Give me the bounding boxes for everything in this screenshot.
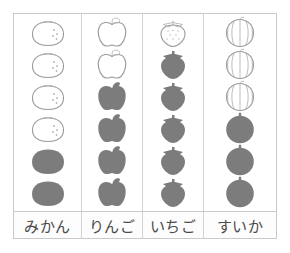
mandarin-icon: [28, 113, 68, 143]
mandarin-icon: [28, 145, 68, 175]
mandarin-icon: [28, 177, 68, 207]
strawberry-icon: [158, 112, 188, 144]
watermelon-icon: [221, 16, 259, 48]
pictograph-cell: [143, 16, 203, 48]
mandarin-icon: [28, 49, 68, 79]
pictograph-cell: [82, 144, 142, 176]
pictograph-cell: [204, 144, 276, 176]
pictograph-cell: [143, 80, 203, 112]
pictograph-cell: [14, 48, 81, 80]
pictograph-cell: [82, 16, 142, 48]
pictograph-cell: [143, 112, 203, 144]
apple-icon: [94, 16, 130, 48]
pictograph-cell: [143, 48, 203, 80]
pictograph-cell: [14, 176, 81, 208]
pictograph-cell: [204, 112, 276, 144]
apple-icon: [94, 80, 130, 112]
watermelon-icon: [221, 48, 259, 80]
pictograph-cell: [204, 16, 276, 48]
pictograph-cell: [14, 16, 81, 48]
pictograph-column-ichigo: [142, 14, 203, 211]
column-label-mikan: みかん: [14, 212, 81, 238]
apple-icon: [94, 144, 130, 176]
watermelon-icon: [221, 144, 259, 176]
pictograph-cell: [143, 176, 203, 208]
watermelon-icon: [221, 112, 259, 144]
pictograph-cell: [204, 80, 276, 112]
pictograph-cell: [14, 80, 81, 112]
strawberry-icon: [158, 144, 188, 176]
apple-icon: [94, 48, 130, 80]
apple-icon: [94, 112, 130, 144]
pictograph-column-mikan: [14, 14, 81, 211]
mandarin-icon: [28, 81, 68, 111]
pictograph-chart: みかん りんご いちご すいか: [13, 13, 277, 239]
strawberry-icon: [158, 80, 188, 112]
strawberry-icon: [158, 48, 188, 80]
pictograph-cell: [82, 176, 142, 208]
column-label-ichigo: いちご: [142, 212, 203, 238]
pictograph-cell: [82, 48, 142, 80]
pictograph-cell: [204, 48, 276, 80]
column-label-suika: すいか: [203, 212, 276, 238]
pictograph-cell: [82, 112, 142, 144]
strawberry-icon: [158, 176, 188, 208]
pictograph-columns: [14, 14, 276, 211]
pictograph-column-suika: [203, 14, 276, 211]
apple-icon: [94, 176, 130, 208]
pictograph-cell: [14, 112, 81, 144]
pictograph-cell: [143, 144, 203, 176]
mandarin-icon: [28, 17, 68, 47]
strawberry-icon: [158, 16, 188, 48]
pictograph-cell: [204, 176, 276, 208]
watermelon-icon: [221, 80, 259, 112]
column-label-ringo: りんご: [81, 212, 142, 238]
pictograph-cell: [14, 144, 81, 176]
watermelon-icon: [221, 176, 259, 208]
pictograph-column-ringo: [81, 14, 142, 211]
pictograph-cell: [82, 80, 142, 112]
pictograph-label-row: みかん りんご いちご すいか: [14, 211, 276, 238]
